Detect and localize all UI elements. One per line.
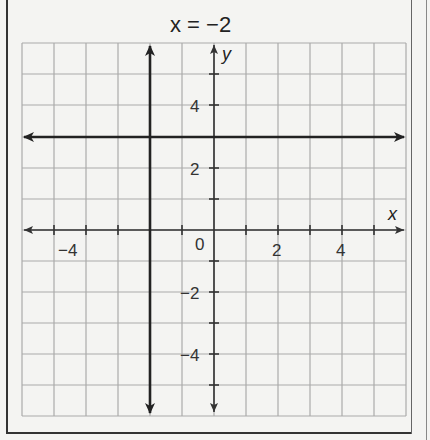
y-tick-neg2: −2 xyxy=(180,284,199,303)
axes xyxy=(24,45,404,412)
chart-title: x = −2 xyxy=(170,12,231,37)
y-tick-2: 2 xyxy=(190,160,199,179)
y-tick-4: 4 xyxy=(190,97,199,116)
x-tick-4: 4 xyxy=(336,241,345,260)
x-axis-label: x xyxy=(387,204,398,224)
y-tick-neg4: −4 xyxy=(180,346,199,365)
x-tick-neg4: −4 xyxy=(58,241,77,260)
y-axis-label: y xyxy=(220,44,232,64)
origin-label: 0 xyxy=(195,235,204,254)
x-tick-2: 2 xyxy=(272,241,281,260)
coordinate-plane: x = −2 y x 0 −4 2 4 4 2 −2 −4 xyxy=(0,0,430,440)
